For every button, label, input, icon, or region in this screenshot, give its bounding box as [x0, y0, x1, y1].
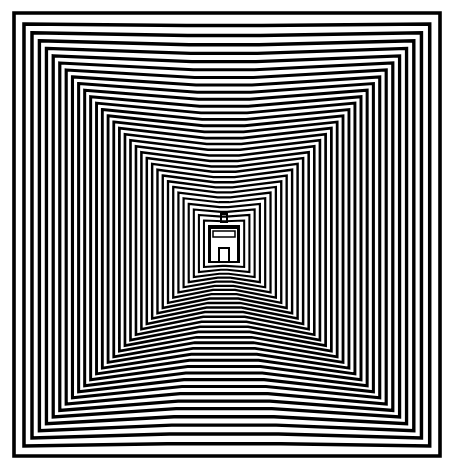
op-art-canvas: [0, 0, 454, 469]
figure-part: [213, 231, 235, 237]
